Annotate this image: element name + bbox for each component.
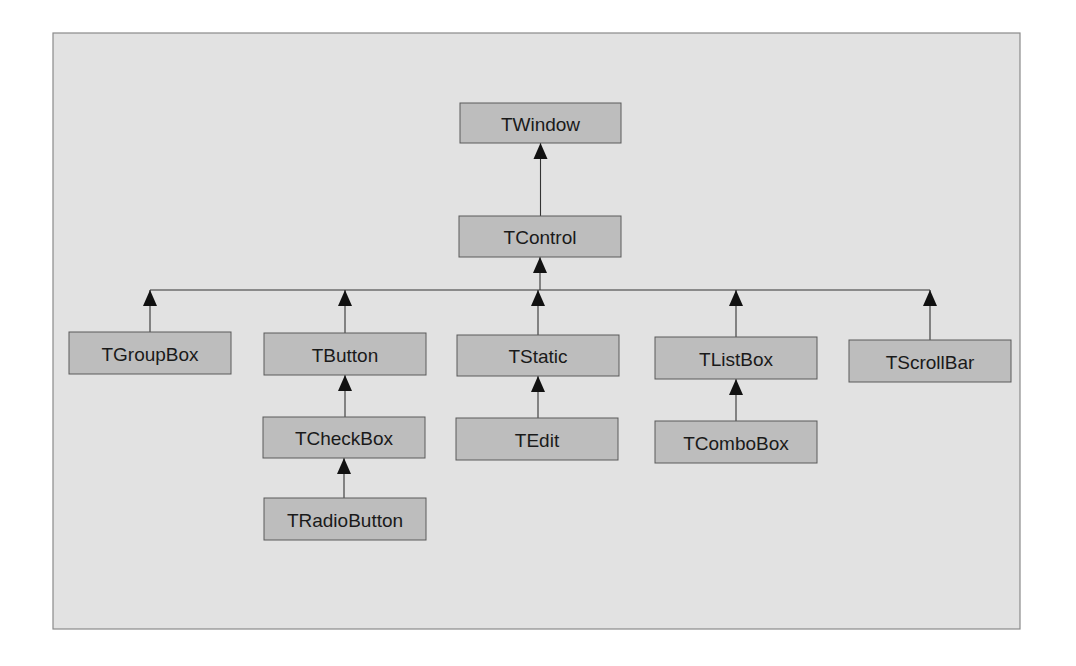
class-label: TStatic [508, 346, 567, 367]
class-node-tcontrol: TControl [459, 216, 621, 257]
class-label: TComboBox [683, 433, 789, 454]
class-label: TGroupBox [101, 344, 199, 365]
class-label: TButton [312, 345, 379, 366]
class-node-tradiobutton: TRadioButton [264, 498, 426, 540]
class-node-tcombobox: TComboBox [655, 421, 817, 463]
class-node-tscrollbar: TScrollBar [849, 340, 1011, 382]
class-label: TControl [504, 227, 577, 248]
class-node-tstatic: TStatic [457, 335, 619, 376]
class-hierarchy-diagram: TWindowTControlTGroupBoxTButtonTStaticTL… [0, 0, 1076, 666]
class-node-tgroupbox: TGroupBox [69, 332, 231, 374]
class-label: TScrollBar [886, 352, 975, 373]
class-label: TCheckBox [295, 428, 394, 449]
class-node-tlistbox: TListBox [655, 337, 817, 379]
class-node-tcheckbox: TCheckBox [263, 417, 425, 458]
class-node-tbutton: TButton [264, 333, 426, 375]
class-label: TEdit [515, 430, 560, 451]
class-node-twindow: TWindow [460, 103, 621, 143]
class-node-tedit: TEdit [456, 418, 618, 460]
class-label: TListBox [699, 349, 773, 370]
class-label: TRadioButton [287, 510, 403, 531]
class-label: TWindow [501, 114, 580, 135]
